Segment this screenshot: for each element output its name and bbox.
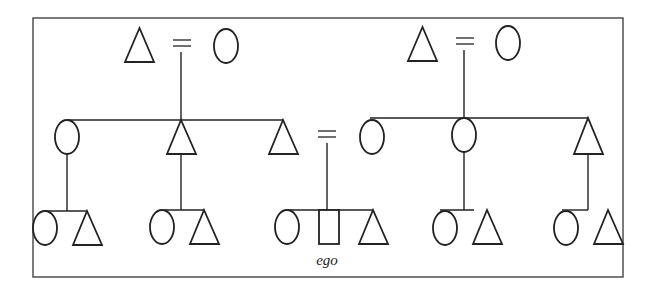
marriage-equals-icon [173, 40, 191, 46]
cousin-female-circle-icon [433, 211, 457, 245]
mother-circle-icon [360, 120, 384, 154]
fathers-sister-circle-icon [55, 120, 79, 154]
male-triangle-icon [408, 27, 437, 61]
parents-marriage-equals-icon [318, 131, 336, 137]
cousin-male-triangle-icon [473, 210, 502, 244]
fathers-brother-triangle-icon [167, 120, 196, 154]
cousin-male-triangle-icon [594, 210, 623, 244]
brother-triangle-icon [359, 210, 388, 244]
father-triangle-icon [269, 120, 298, 154]
ego-square-icon [319, 210, 339, 244]
cousin-female-circle-icon [554, 211, 578, 245]
cousin-female-circle-icon [33, 211, 57, 245]
cousin-male-triangle-icon [190, 210, 219, 244]
cousin-female-circle-icon [150, 210, 174, 244]
female-circle-icon [496, 26, 520, 60]
male-triangle-icon [125, 28, 154, 62]
marriage-equals-icon [456, 38, 474, 44]
mothers-sister-circle-icon [452, 118, 476, 152]
cousin-male-triangle-icon [73, 211, 102, 245]
mothers-brother-triangle-icon [574, 118, 603, 154]
sister-circle-icon [275, 210, 299, 244]
female-circle-icon [214, 29, 238, 63]
ego-label: ego [316, 252, 338, 268]
kinship-diagram: ego [0, 0, 655, 296]
